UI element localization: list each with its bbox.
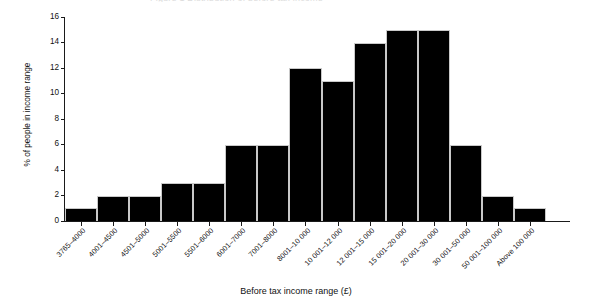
bar: [289, 68, 321, 221]
x-tick-label: 5501–6000: [183, 226, 216, 259]
y-tick-label: 4: [54, 165, 59, 174]
bar: [514, 208, 546, 221]
y-axis-title: % of people in income range: [23, 35, 32, 195]
y-tick-label: 8: [54, 114, 59, 123]
bar-slot: [354, 17, 386, 221]
x-tick-label: 6001–7000: [215, 226, 248, 259]
x-tick-label: 7001–8000: [247, 226, 280, 259]
plot-area: 0246810121416: [65, 17, 546, 221]
y-tick-label: 14: [50, 37, 59, 46]
bar-slot: [418, 17, 450, 221]
x-axis-title: Before tax income range (£): [0, 286, 592, 296]
bar: [450, 145, 482, 222]
bar-slot: [97, 17, 129, 221]
bar-slot: [129, 17, 161, 221]
y-tick-label: 2: [54, 190, 59, 199]
bar: [65, 208, 97, 221]
bar: [386, 30, 418, 221]
bar: [418, 30, 450, 221]
y-tick-label: 16: [50, 12, 59, 21]
bar: [322, 81, 354, 221]
bar-slot: [193, 17, 225, 221]
bar-slot: [225, 17, 257, 221]
bar: [482, 196, 514, 222]
y-tick-label: 0: [54, 216, 59, 225]
bar-series: [65, 17, 546, 221]
bar-slot: [514, 17, 546, 221]
bar: [193, 183, 225, 221]
bar-slot: [386, 17, 418, 221]
bar: [97, 196, 129, 222]
bar-slot: [450, 17, 482, 221]
bar-slot: [161, 17, 193, 221]
cropped-title-text: Figure 1 Distribution of before tax inco…: [150, 0, 450, 2]
bar-slot: [65, 17, 97, 221]
x-axis-tick-labels: 3765–40004001–45004501–50005001–55005501…: [65, 226, 546, 282]
bar: [161, 183, 193, 221]
bar-slot: [482, 17, 514, 221]
bar-slot: [289, 17, 321, 221]
x-tick-label: 3765–4000: [55, 226, 88, 259]
y-tick-label: 12: [50, 63, 59, 72]
bar-slot: [322, 17, 354, 221]
x-tick-label: 5001–5500: [151, 226, 184, 259]
bar: [129, 196, 161, 222]
x-tick-label: 4501–5000: [119, 226, 152, 259]
bar: [354, 43, 386, 222]
chart-figure: Figure 1 Distribution of before tax inco…: [0, 0, 592, 305]
x-tick-label: 4001–4500: [87, 226, 120, 259]
bar: [257, 145, 289, 222]
bar: [225, 145, 257, 222]
bar-slot: [257, 17, 289, 221]
y-tick-label: 10: [50, 88, 59, 97]
y-tick-label: 6: [54, 139, 59, 148]
